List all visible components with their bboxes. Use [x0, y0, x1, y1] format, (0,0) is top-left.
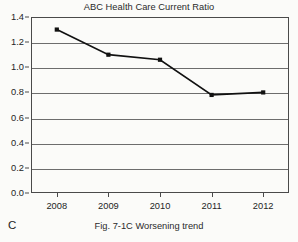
y-axis-tick-label: 0.2 — [11, 163, 24, 173]
x-axis-tick-label: 2008 — [46, 201, 67, 211]
x-axis-tick-label: 2012 — [253, 201, 274, 211]
y-axis-tick-label: 0.0 — [11, 188, 24, 198]
x-axis-tick-label: 2010 — [150, 201, 171, 211]
figure-panel: ABC Health Care Current Ratio 0.00.20.40… — [0, 0, 298, 242]
figure-caption: Fig. 7-1C Worsening trend — [0, 221, 298, 231]
y-axis: 0.00.20.40.60.81.01.21.4 — [0, 17, 29, 193]
y-axis-tick-label: 0.4 — [11, 138, 24, 148]
y-axis-tick — [25, 193, 29, 194]
line-series — [31, 17, 289, 193]
x-axis-tick-label: 2009 — [98, 201, 119, 211]
y-axis-tick — [25, 67, 29, 68]
y-axis-tick-label: 0.6 — [11, 113, 24, 123]
data-point-marker — [158, 58, 162, 62]
caption-row: C Fig. 7-1C Worsening trend — [0, 219, 298, 239]
data-point-marker — [261, 90, 265, 94]
x-axis: 20082009201020112012 — [31, 193, 289, 215]
data-point-marker — [55, 27, 59, 31]
data-point-marker — [106, 53, 110, 57]
chart-title: ABC Health Care Current Ratio — [0, 2, 298, 12]
y-axis-tick — [25, 167, 29, 168]
y-axis-tick-label: 0.8 — [11, 87, 24, 97]
x-axis-tick — [57, 193, 58, 197]
x-axis-tick — [108, 193, 109, 197]
y-axis-tick — [25, 117, 29, 118]
x-axis-tick — [160, 193, 161, 197]
y-axis-tick — [25, 17, 29, 18]
y-axis-tick-label: 1.0 — [11, 62, 24, 72]
data-line — [57, 30, 263, 95]
y-axis-tick — [25, 142, 29, 143]
y-axis-tick-label: 1.4 — [11, 12, 24, 22]
y-axis-tick-label: 1.2 — [11, 37, 24, 47]
x-axis-tick — [263, 193, 264, 197]
x-axis-tick — [212, 193, 213, 197]
y-axis-tick — [25, 42, 29, 43]
y-axis-tick — [25, 92, 29, 93]
x-axis-tick-label: 2011 — [202, 201, 222, 211]
data-point-marker — [210, 93, 214, 97]
